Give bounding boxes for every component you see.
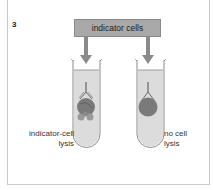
test-tube-right	[135, 59, 166, 148]
caption-left: indicator-cell lysis	[12, 129, 74, 149]
indicator-cells-label: indicator cells	[74, 19, 161, 37]
arrow-right-icon	[142, 37, 154, 64]
caption-left-line2: lysis	[12, 139, 74, 149]
intact-cell-icon	[139, 98, 158, 117]
caption-left-line1: indicator-cell	[12, 129, 74, 139]
test-tube-left	[71, 59, 102, 148]
arrow-left-icon	[80, 37, 92, 64]
caption-right: no cell lysis	[164, 129, 204, 149]
caption-right-line2: lysis	[164, 139, 204, 149]
caption-right-line1: no cell	[164, 129, 204, 139]
